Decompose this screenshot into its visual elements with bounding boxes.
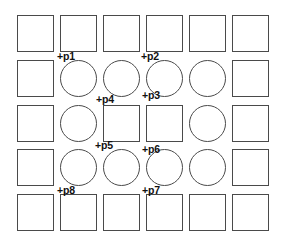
circle-shape [189,60,226,97]
square-shape [232,105,269,142]
point-label-p3: +p3 [142,90,160,100]
circle-shape [103,149,140,186]
point-label-p2: +p2 [141,51,159,61]
circle-shape [103,60,140,97]
square-shape [146,105,183,142]
square-shape [103,15,140,52]
square-shape [60,15,97,52]
circle-shape [189,149,226,186]
point-label-p8: +p8 [57,185,75,195]
square-shape [232,15,269,52]
square-shape [17,105,54,142]
square-shape [17,194,54,231]
square-shape [103,105,140,142]
point-label-p4: +p4 [96,94,114,104]
point-label-p5: +p5 [95,140,113,150]
square-shape [146,194,183,231]
square-shape [60,194,97,231]
square-shape [189,194,226,231]
square-shape [232,60,269,97]
circle-shape [60,60,97,97]
circle-shape [189,105,226,142]
diagram-canvas: +p1+p2+p3+p4+p5+p6+p7+p8 [0,0,282,242]
circle-shape [60,105,97,142]
point-label-p7: +p7 [142,185,160,195]
circle-shape [60,149,97,186]
square-shape [103,194,140,231]
point-label-p1: +p1 [57,51,75,61]
square-shape [17,15,54,52]
square-shape [232,149,269,186]
square-shape [146,15,183,52]
square-shape [17,149,54,186]
square-shape [232,194,269,231]
point-label-p6: +p6 [142,144,160,154]
square-shape [17,60,54,97]
square-shape [189,15,226,52]
